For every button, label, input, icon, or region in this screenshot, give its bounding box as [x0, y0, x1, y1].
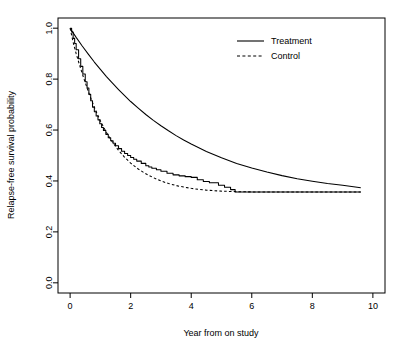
x-tick-label: 0 [68, 301, 73, 311]
y-tick-label: 0.8 [44, 73, 54, 86]
y-tick-label: 0.0 [44, 277, 54, 290]
x-axis-label: Year from on study [183, 328, 259, 338]
x-tick-label: 8 [310, 301, 315, 311]
y-tick-label: 0.4 [44, 175, 54, 188]
y-tick-label: 0.6 [44, 124, 54, 137]
x-tick-label: 10 [368, 301, 378, 311]
legend-label-control: Control [271, 51, 300, 61]
survival-plot-figure: 0.00.20.40.60.81.0 0246810 Year from on … [0, 0, 400, 351]
x-tick-label: 4 [189, 301, 194, 311]
plot-background [0, 0, 400, 351]
y-axis-label: Relapse-free survival probability [6, 90, 16, 219]
survival-plot-svg: 0.00.20.40.60.81.0 0246810 Year from on … [0, 0, 400, 351]
x-tick-label: 2 [128, 301, 133, 311]
y-tick-label: 0.2 [44, 226, 54, 239]
x-tick-label: 6 [249, 301, 254, 311]
legend-label-treatment: Treatment [271, 36, 312, 46]
y-tick-label: 1.0 [44, 22, 54, 35]
